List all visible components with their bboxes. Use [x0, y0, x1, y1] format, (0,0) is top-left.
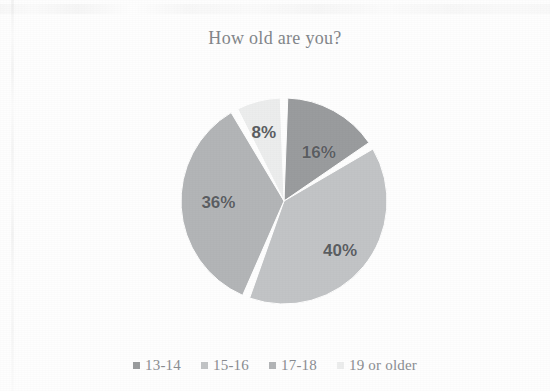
slice-label-17-18: 36% [201, 193, 235, 213]
legend-item-17-18: 17-18 [269, 357, 317, 374]
pie-plot-area: 16% 40% 36% 8% [0, 0, 550, 391]
slice-label-13-14: 16% [302, 143, 336, 163]
legend-label: 15-16 [213, 357, 249, 374]
legend-label: 17-18 [281, 357, 317, 374]
pie-chart-figure: How old are you? 16% 40% 36% 8% 13-14 15… [0, 0, 550, 391]
legend-swatch-icon [133, 362, 140, 369]
legend-label: 19 or older [349, 357, 417, 374]
legend-item-19-or-older: 19 or older [337, 357, 417, 374]
legend-label: 13-14 [145, 357, 181, 374]
pie-svg [0, 0, 550, 391]
legend-swatch-icon [337, 362, 344, 369]
legend-swatch-icon [269, 362, 276, 369]
legend-swatch-icon [201, 362, 208, 369]
legend-item-13-14: 13-14 [133, 357, 181, 374]
legend-item-15-16: 15-16 [201, 357, 249, 374]
slice-label-15-16: 40% [323, 241, 357, 261]
slice-label-19-or-older: 8% [252, 123, 277, 143]
chart-legend: 13-14 15-16 17-18 19 or older [0, 357, 550, 374]
